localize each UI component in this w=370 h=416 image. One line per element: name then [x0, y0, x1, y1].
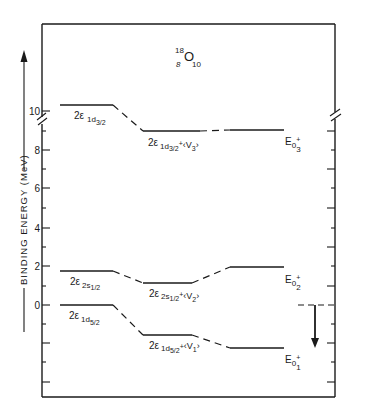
- label-2s12-v2: 2ε2s1/2+‹V2›: [149, 288, 199, 303]
- axis-label: BINDING ENERGY (MeV): [18, 154, 29, 285]
- label-1d32: 2ε1d3/2: [74, 110, 106, 126]
- neutron-number: 10: [192, 60, 201, 69]
- labels-final: E0+3 E0+2 E0+1: [285, 136, 301, 372]
- nucleus-title: 18 O 8 10: [175, 46, 201, 69]
- tick-labels: 10 8 6 4 2 0: [29, 106, 41, 311]
- right-axis-ticks: [327, 131, 335, 382]
- label-E03: E0+3: [285, 136, 301, 154]
- y-axis-title: BINDING ENERGY (MeV): [18, 50, 29, 332]
- labels-unperturbed: 2ε1d3/2 2ε2s1/2 2ε1d5/2: [69, 110, 106, 326]
- tick-label-6: 6: [34, 183, 40, 194]
- proton-number: 8: [176, 60, 181, 69]
- label-1d52-v1: 2ε1d5/2+‹V1›: [149, 340, 200, 354]
- label-E01: E0+1: [285, 354, 301, 372]
- up-arrow-icon: [21, 50, 28, 62]
- dashed-connectors: [113, 105, 230, 348]
- label-E02: E0+2: [285, 274, 301, 292]
- left-axis-ticks: [42, 111, 50, 382]
- level-lines: [60, 105, 284, 348]
- energy-level-diagram: 10 8 6 4 2 0 BINDING ENERGY (MeV) 18 O 8…: [0, 0, 370, 416]
- tick-label-2: 2: [34, 261, 40, 272]
- tick-label-10: 10: [29, 106, 41, 117]
- tick-label-0: 0: [34, 300, 40, 311]
- reference-marker: [298, 305, 335, 348]
- tick-label-4: 4: [34, 223, 40, 234]
- label-2s12: 2ε2s1/2: [70, 276, 100, 291]
- label-1d32-v3: 2ε1d3/2+‹V3›: [148, 137, 199, 152]
- down-arrow-icon: [311, 338, 319, 348]
- tick-label-8: 8: [34, 145, 40, 156]
- labels-diagonal: 2ε1d3/2+‹V3› 2ε2s1/2+‹V2› 2ε1d5/2+‹V1›: [148, 137, 200, 354]
- label-1d52: 2ε1d5/2: [69, 310, 100, 326]
